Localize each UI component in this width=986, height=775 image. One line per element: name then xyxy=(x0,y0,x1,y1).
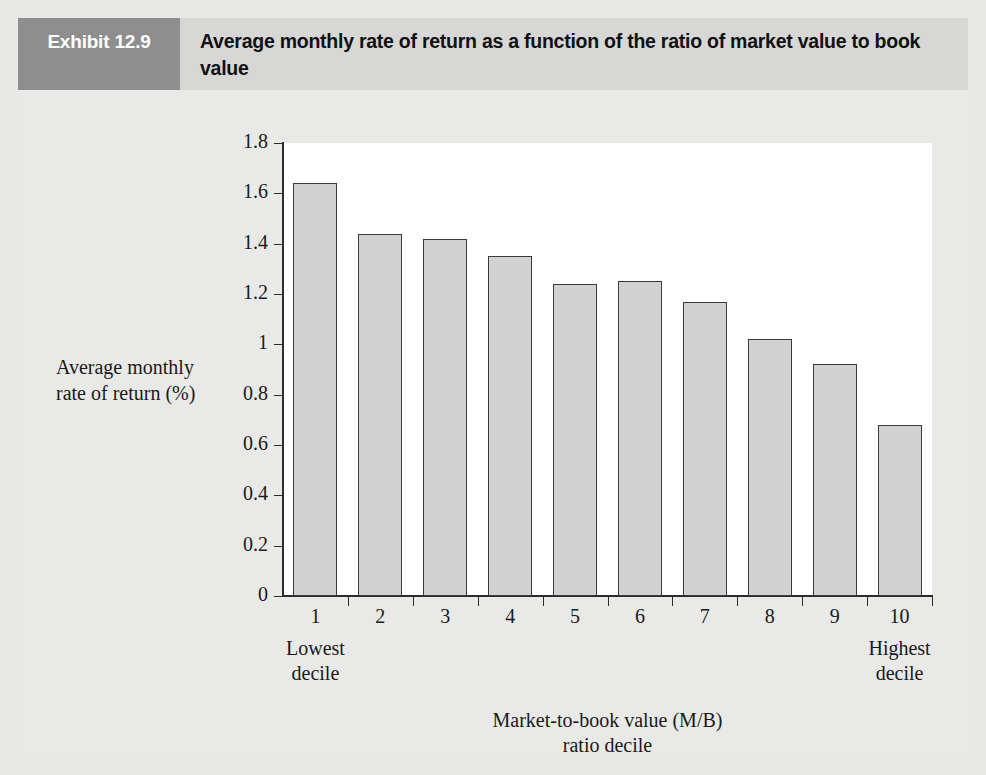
y-axis-tick xyxy=(274,344,283,345)
y-axis-tick-label: 0 xyxy=(212,583,268,606)
x-axis-tick xyxy=(802,597,803,606)
x-axis-tick-label: 5 xyxy=(553,605,597,628)
y-axis-tick-label: 0.6 xyxy=(212,432,268,455)
y-axis-tick-label: 0.2 xyxy=(212,533,268,556)
x-axis-tick xyxy=(413,597,414,606)
y-axis-title: Average monthly rate of return (%) xyxy=(56,354,256,406)
x-axis-tick xyxy=(867,597,868,606)
x-axis-title-line2: ratio decile xyxy=(283,733,932,758)
bar xyxy=(358,234,402,596)
highest-decile-line1: Highest xyxy=(825,636,975,661)
x-axis-title: Market-to-book value (M/B) ratio decile xyxy=(283,708,932,758)
bar xyxy=(293,183,337,596)
x-axis-tick-label: 10 xyxy=(878,605,922,628)
highest-decile-annotation: Highest decile xyxy=(825,636,975,686)
x-axis-tick xyxy=(608,597,609,606)
bar xyxy=(683,302,727,596)
x-axis-tick-label: 3 xyxy=(423,605,467,628)
y-axis-tick xyxy=(274,143,283,144)
y-axis-tick xyxy=(274,445,283,446)
x-axis-tick xyxy=(672,597,673,606)
exhibit-number-badge: Exhibit 12.9 xyxy=(18,18,180,90)
x-axis-tick-label: 1 xyxy=(293,605,337,628)
chart-area: 1.81.61.41.210.80.60.40.20 12345678910 L… xyxy=(18,90,968,758)
bar xyxy=(488,256,532,596)
bar xyxy=(878,425,922,596)
x-axis-tick xyxy=(543,597,544,606)
x-axis-tick-label: 7 xyxy=(683,605,727,628)
y-axis-tick xyxy=(274,294,283,295)
exhibit-header-band: Exhibit 12.9 Average monthly rate of ret… xyxy=(18,18,968,90)
exhibit-title: Average monthly rate of return as a func… xyxy=(200,28,952,82)
y-axis-tick-label: 1.8 xyxy=(212,130,268,153)
y-axis-title-line2: rate of return (%) xyxy=(56,380,256,406)
y-axis-title-line1: Average monthly xyxy=(56,354,256,380)
lowest-decile-line2: decile xyxy=(240,661,390,686)
bar xyxy=(553,284,597,596)
bar xyxy=(748,339,792,596)
y-axis-tick-label: 0.4 xyxy=(212,482,268,505)
x-axis-tick-label: 2 xyxy=(358,605,402,628)
y-axis-tick-label: 1.6 xyxy=(212,180,268,203)
x-axis-title-line1: Market-to-book value (M/B) xyxy=(283,708,932,733)
bar xyxy=(813,364,857,596)
x-axis-tick-label: 6 xyxy=(618,605,662,628)
y-axis-tick xyxy=(274,546,283,547)
y-axis-tick-label: 1.4 xyxy=(212,231,268,254)
y-axis-tick xyxy=(274,395,283,396)
y-axis-line xyxy=(282,142,284,597)
x-axis-tick xyxy=(478,597,479,606)
y-axis-tick-label: 1 xyxy=(212,331,268,354)
highest-decile-line2: decile xyxy=(825,661,975,686)
y-axis-tick xyxy=(274,193,283,194)
exhibit-page: Exhibit 12.9 Average monthly rate of ret… xyxy=(0,0,986,775)
x-axis-tick-label: 4 xyxy=(488,605,532,628)
y-axis-tick xyxy=(274,244,283,245)
x-axis-tick-label: 8 xyxy=(748,605,792,628)
y-axis-tick xyxy=(274,596,283,597)
bar xyxy=(618,281,662,596)
x-axis-tick xyxy=(932,597,933,606)
exhibit-container: Exhibit 12.9 Average monthly rate of ret… xyxy=(18,18,968,758)
lowest-decile-line1: Lowest xyxy=(240,636,390,661)
lowest-decile-annotation: Lowest decile xyxy=(240,636,390,686)
x-axis-tick-label: 9 xyxy=(813,605,857,628)
x-axis-tick xyxy=(348,597,349,606)
bar xyxy=(423,239,467,596)
y-axis-tick-label: 1.2 xyxy=(212,281,268,304)
x-axis-tick xyxy=(737,597,738,606)
y-axis-tick xyxy=(274,495,283,496)
